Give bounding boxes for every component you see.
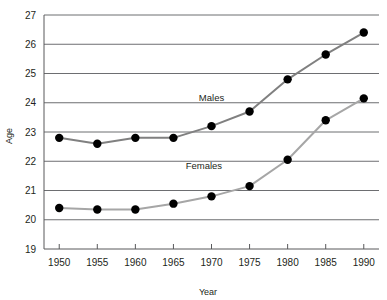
- x-tick-labels: 195019551960196519701975198019851990: [48, 257, 375, 268]
- y-tick-label: 20: [25, 214, 37, 225]
- x-tick-label: 1985: [315, 257, 338, 268]
- data-point-males: [55, 134, 63, 142]
- data-point-females: [93, 205, 101, 213]
- x-tick-label: 1955: [86, 257, 109, 268]
- x-axis: [44, 244, 379, 249]
- y-tick-label: 25: [25, 68, 37, 79]
- x-tick-label: 1970: [200, 257, 223, 268]
- data-point-males: [169, 134, 177, 142]
- data-point-males: [322, 50, 330, 58]
- series-annotation: Males: [199, 92, 225, 103]
- y-tick-label: 26: [25, 39, 37, 50]
- x-tick-label: 1980: [277, 257, 300, 268]
- data-point-females: [283, 156, 291, 164]
- data-point-females: [245, 182, 253, 190]
- y-tick-labels: 192021222324252627: [25, 10, 37, 255]
- y-tick-label: 22: [25, 156, 37, 167]
- y-axis-title: Age: [4, 128, 14, 144]
- data-point-females: [169, 199, 177, 207]
- y-tick-label: 23: [25, 127, 37, 138]
- chart-container: 192021222324252627 195019551960196519701…: [0, 0, 387, 300]
- y-tick-label: 24: [25, 97, 37, 108]
- data-point-males: [360, 28, 368, 36]
- y-tick-label: 21: [25, 185, 37, 196]
- x-tick-label: 1960: [124, 257, 147, 268]
- data-point-males: [283, 75, 291, 83]
- data-point-males: [93, 140, 101, 148]
- data-point-females: [322, 116, 330, 124]
- x-tick-label: 1950: [48, 257, 71, 268]
- x-tick-label: 1990: [353, 257, 376, 268]
- y-tick-label: 19: [25, 244, 37, 255]
- data-point-females: [131, 205, 139, 213]
- y-tick-label: 27: [25, 10, 37, 21]
- x-tick-label: 1965: [162, 257, 185, 268]
- line-chart: 192021222324252627 195019551960196519701…: [0, 0, 387, 300]
- x-tick-label: 1975: [238, 257, 261, 268]
- data-point-females: [55, 204, 63, 212]
- series-annotation: Females: [186, 160, 223, 171]
- series-lines: [59, 33, 364, 210]
- data-point-males: [245, 107, 253, 115]
- gridlines: [44, 15, 379, 220]
- data-point-males: [207, 122, 215, 130]
- series-markers: [55, 28, 368, 213]
- x-axis-title: Year: [199, 287, 217, 297]
- data-point-females: [207, 192, 215, 200]
- data-point-males: [131, 134, 139, 142]
- data-point-females: [360, 94, 368, 102]
